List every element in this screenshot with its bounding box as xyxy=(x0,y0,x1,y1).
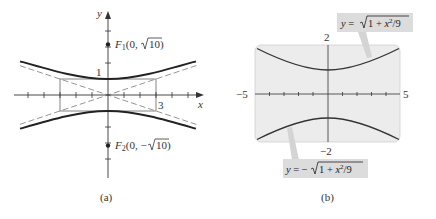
lower-formula: y = − 1 + x2/9 xyxy=(285,162,363,175)
svg-text:1 + x2/9: 1 + x2/9 xyxy=(368,17,401,29)
panel-b-caption: (b) xyxy=(321,191,334,204)
vertex-label: 1 xyxy=(96,66,102,78)
svg-text:F2(0, −: F2(0, − xyxy=(114,139,147,153)
svg-text:F1(0,: F1(0, xyxy=(114,38,138,52)
panel-a-caption: (a) xyxy=(100,191,113,204)
rect-corner-label: 3 xyxy=(158,99,164,111)
b-x-max-label: 5 xyxy=(403,88,409,100)
svg-text:10): 10) xyxy=(149,38,164,51)
svg-text:y = −: y = − xyxy=(285,164,308,175)
focus-2-label: F2(0, − 10) xyxy=(114,139,171,153)
x-axis-label: x xyxy=(197,98,203,110)
focus-1-label: F1(0, 10) xyxy=(114,38,164,52)
focus-1-point xyxy=(106,42,110,46)
focus-2-point xyxy=(106,143,110,147)
calculator-screen xyxy=(255,45,400,142)
svg-text:y =: y = xyxy=(340,18,354,29)
upper-formula: y = 1 + x2/9 xyxy=(340,16,409,29)
panel-a: y x 1 3 F1(0, 10) F2(0, − 10) (a) xyxy=(14,7,204,204)
svg-text:10): 10) xyxy=(156,139,171,152)
figure: y x 1 3 F1(0, 10) F2(0, − 10) (a) xyxy=(0,0,436,219)
b-y-min-label: −2 xyxy=(320,145,332,157)
y-axis-label: y xyxy=(96,7,102,19)
svg-text:1 + x2/9: 1 + x2/9 xyxy=(319,163,352,175)
b-x-min-label: −5 xyxy=(236,88,248,100)
y-axis-arrow-icon xyxy=(105,11,111,19)
b-y-max-label: 2 xyxy=(324,31,330,43)
panel-b: 2 −2 −5 5 y = 1 + x2/9 y = − 1 + x2/9 (b… xyxy=(236,13,413,204)
